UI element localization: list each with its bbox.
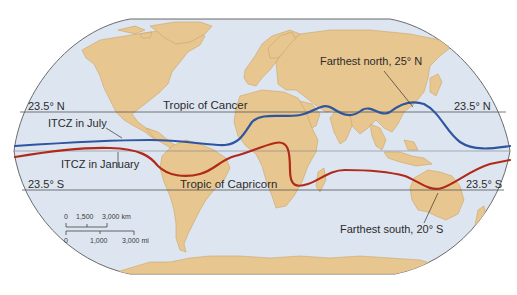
itcz-july-label: ITCZ in July bbox=[48, 118, 107, 129]
world-map bbox=[0, 0, 517, 295]
latitude-label-north-right: 23.5° N bbox=[454, 101, 491, 112]
latitude-label-north-left: 23.5° N bbox=[28, 101, 65, 112]
farthest-north-label: Farthest north, 25° N bbox=[320, 56, 422, 67]
scale-bar: 0 1,500 3,000 km 0 1,000 3,000 mi bbox=[60, 208, 160, 248]
tropic-of-cancer-label: Tropic of Cancer bbox=[163, 100, 248, 112]
latitude-label-south-left: 23.5° S bbox=[28, 179, 64, 190]
scale-mi-3000: 3,000 mi bbox=[122, 237, 149, 244]
scale-mi-1000: 1,000 bbox=[90, 237, 108, 244]
scale-km-0: 0 bbox=[64, 213, 68, 220]
scale-km-3000: 3,000 km bbox=[102, 213, 131, 220]
tropic-of-capricorn-label: Tropic of Capricorn bbox=[180, 179, 277, 191]
scale-km-1500: 1,500 bbox=[76, 213, 94, 220]
latitude-label-south-right: 23.5° S bbox=[466, 179, 502, 190]
itcz-january-label: ITCZ in January bbox=[61, 159, 139, 170]
scale-mi-0: 0 bbox=[64, 237, 68, 244]
farthest-south-label: Farthest south, 20° S bbox=[340, 224, 443, 235]
